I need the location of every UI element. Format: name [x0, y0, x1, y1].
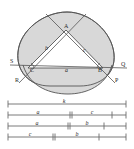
measure-bar-c-b: c b: [8, 131, 126, 141]
bar-cb-segment-c-label: c: [29, 131, 32, 137]
side-label-a: a: [65, 67, 68, 73]
measure-bar-a-b: a b: [8, 120, 126, 130]
bar-ac-segment-a-label: a: [37, 109, 40, 115]
vertex-label-B: B: [98, 67, 102, 73]
bar-k-label: k: [63, 98, 66, 104]
vertex-label-C: C: [30, 67, 34, 73]
side-label-b: b: [45, 45, 48, 51]
point-label-S: S: [10, 58, 13, 64]
measure-bar-a-c: a c: [8, 109, 126, 119]
bar-ab-segment-a-label: a: [36, 120, 39, 126]
side-label-c: c: [83, 47, 86, 53]
bar-ab-segment-b-label: b: [86, 120, 89, 126]
geometry-figure: A C B b c a S Q R P k a c: [0, 0, 134, 149]
point-label-P: P: [115, 77, 119, 83]
bar-cb-segment-b-label: b: [76, 131, 79, 137]
measure-bar-k: k: [8, 98, 126, 108]
figure-root: A C B b c a S Q R P k a c: [0, 0, 134, 149]
point-label-Q: Q: [121, 61, 126, 67]
vertex-label-A: A: [64, 23, 69, 29]
bar-ac-segment-c-label: c: [91, 109, 94, 115]
point-label-R: R: [15, 77, 19, 83]
